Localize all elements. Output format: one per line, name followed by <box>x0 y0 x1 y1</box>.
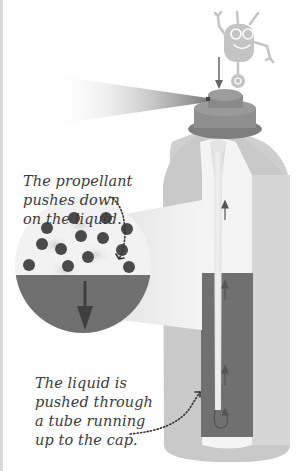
caption-line: The propellant <box>23 172 133 191</box>
spray-mist <box>50 75 208 125</box>
caption-line: on the liquid. <box>23 210 133 229</box>
caption-line: a tube running <box>35 412 153 431</box>
robot-mascot <box>215 12 273 88</box>
caption-line: up to the cap. <box>35 431 153 450</box>
caption-line: pushed through <box>35 393 153 412</box>
caption-line: pushes down <box>23 191 133 210</box>
propellant-caption: The propellant pushes down on the liquid… <box>23 172 133 229</box>
caption-line: The liquid is <box>35 374 153 393</box>
liquid-caption: The liquid is pushed through a tube runn… <box>35 374 153 450</box>
